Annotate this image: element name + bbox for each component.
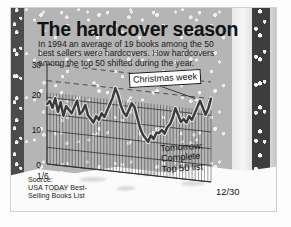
infographic-page: The hardcover season In 1994 an average … bbox=[0, 0, 291, 227]
y-tick-label-30: 30 bbox=[25, 60, 41, 70]
y-tick-label-10: 10 bbox=[25, 125, 41, 135]
source-line-3: Selling Books List bbox=[28, 192, 87, 200]
y-tick-label-20: 20 bbox=[25, 90, 41, 100]
x-tick-label-end: 12/30 bbox=[216, 186, 239, 197]
y-tick-label-0: 0 bbox=[25, 160, 41, 170]
headline-title: The hardcover season bbox=[37, 18, 238, 41]
tomorrow-promo-note: Tomorrow: Complete Top 50 list bbox=[160, 141, 205, 175]
newspaper-clipping: The hardcover season In 1994 an average … bbox=[11, 8, 276, 211]
source-credit: Source: USA TODAY Best- Selling Books Li… bbox=[28, 176, 87, 201]
